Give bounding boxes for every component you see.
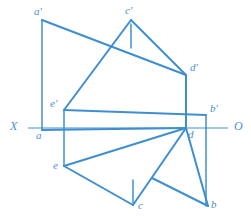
edge-a-prime-to-d-prime (42, 20, 186, 75)
edge-e-to-c (64, 166, 133, 205)
edges-group (42, 20, 208, 206)
edge-e-prime-to-b-prime (64, 110, 206, 115)
point-label-e-prime: e′ (50, 98, 57, 109)
point-label-d: d (188, 129, 194, 140)
edge-e-to-d (64, 128, 186, 166)
point-label-b-prime: b′ (210, 103, 218, 114)
point-label-a-prime: a′ (34, 6, 42, 17)
edge-c-area-to-b (152, 178, 208, 206)
diagram-canvas: a′c′d′e′b′adecb X O (0, 0, 251, 218)
axis-label-o: O (234, 121, 243, 132)
axis-label-x: X (10, 121, 17, 132)
point-label-c-prime: c′ (125, 5, 132, 16)
point-label-a: a (36, 130, 42, 141)
point-label-e: e (53, 160, 58, 171)
point-label-b: b (211, 199, 217, 210)
point-label-c: c (138, 200, 143, 211)
edge-e-prime-to-c-prime (64, 20, 131, 110)
edge-c-prime-to-d-prime (131, 20, 186, 75)
edge-c-to-d (133, 128, 186, 205)
point-label-d-prime: d′ (190, 62, 198, 73)
